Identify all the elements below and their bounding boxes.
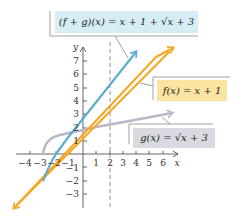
svg-text:−3: −3: [33, 158, 47, 168]
svg-text:3: 3: [73, 109, 79, 119]
svg-text:−4: −4: [18, 158, 32, 168]
svg-text:7: 7: [73, 56, 79, 66]
svg-text:−3: −3: [66, 189, 80, 199]
svg-text:1: 1: [73, 136, 79, 146]
chart-canvas: −4−3−2−1 123 456 x 7654 321 −1−2−3 y: [0, 0, 235, 220]
svg-text:2: 2: [107, 158, 113, 168]
svg-text:6: 6: [73, 69, 79, 79]
svg-text:5: 5: [146, 158, 152, 168]
svg-text:x: x: [174, 158, 179, 168]
svg-text:−1: −1: [66, 163, 79, 173]
x-tick-labels: −4−3−2−1 123 456 x: [18, 158, 179, 168]
y-tick-labels: 7654 321 −1−2−3 y: [66, 42, 80, 199]
svg-text:y: y: [72, 42, 79, 52]
svg-text:5: 5: [73, 83, 79, 93]
svg-text:6: 6: [160, 158, 166, 168]
label-f: f(x) = x + 1: [157, 80, 227, 101]
svg-text:1: 1: [93, 158, 99, 168]
svg-text:4: 4: [73, 96, 79, 106]
svg-text:4: 4: [133, 158, 139, 168]
svg-text:3: 3: [120, 158, 126, 168]
label-g: g(x) = √x + 3: [133, 128, 215, 148]
svg-text:2: 2: [73, 123, 79, 133]
label-fg: (f + g)(x) = x + 1 + √x + 3: [55, 11, 198, 33]
svg-text:−2: −2: [47, 158, 60, 168]
svg-text:−2: −2: [66, 176, 79, 186]
